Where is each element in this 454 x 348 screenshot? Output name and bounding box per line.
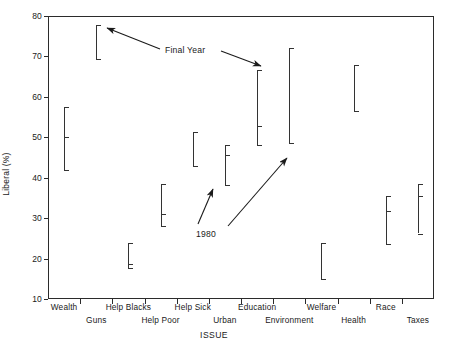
range-cap-bottom [128,268,133,269]
range-cap-top [64,107,69,108]
x-axis-label-race: Race [376,302,396,312]
range-cap-top [354,65,359,66]
y-tick [44,178,48,179]
range-cap-bottom [257,145,262,146]
range-bar [193,132,194,166]
x-tick [338,299,339,304]
range-cap-bottom [289,143,294,144]
range-cap-top [193,132,198,133]
x-axis-label-urban: Urban [213,315,236,325]
range-cap-top [161,184,166,185]
range-cap-top [418,184,423,185]
x-axis-label-taxes: Taxes [407,315,429,325]
range-bar [386,196,387,245]
x-tick [370,299,371,304]
y-tick [44,259,48,260]
y-tick-label: 60 [32,92,42,102]
y-tick [44,16,48,17]
range-cap-bottom [161,226,166,227]
x-axis-label-help-blacks: Help Blacks [106,302,151,312]
range-cap-bottom [225,185,230,186]
x-tick [80,299,81,304]
x-axis-label-education: Education [238,302,276,312]
range-cap-top [225,145,230,146]
x-tick [402,299,403,304]
range-cap-bottom [354,111,359,112]
annotation-1980: 1980 [196,229,216,239]
marker-1980 [161,214,166,215]
y-tick [44,56,48,57]
y-axis-line [48,16,49,299]
y-tick [44,97,48,98]
y-tick [44,218,48,219]
range-cap-top [96,25,101,26]
marker-1980 [257,126,262,127]
x-axis-label-help-poor: Help Poor [141,315,179,325]
y-tick [44,299,48,300]
range-cap-bottom [321,279,326,280]
annotation-final-year: Final Year [165,45,205,55]
range-bar [289,48,290,143]
x-axis-label-wealth: Wealth [51,302,78,312]
y-tick [44,137,48,138]
frame-top-border [48,16,434,17]
range-bar [161,184,162,226]
y-axis-title: Liberal (%) [1,152,11,195]
marker-1980 [128,264,133,265]
x-axis-title: ISSUE [200,330,228,340]
range-bar [321,243,322,279]
marker-1980 [225,155,230,156]
x-axis-label-health: Health [341,315,366,325]
x-axis-label-guns: Guns [86,315,106,325]
range-cap-top [321,243,326,244]
y-tick-label: 40 [32,173,42,183]
y-tick-label: 80 [32,11,42,21]
marker-1980 [418,196,423,197]
frame-right-border [433,16,434,299]
range-bar [354,65,355,112]
y-tick-label: 70 [32,51,42,61]
y-tick-label: 20 [32,254,42,264]
range-cap-top [257,70,262,71]
range-bar [225,145,226,184]
range-cap-top [289,48,294,49]
range-cap-bottom [193,166,198,167]
y-tick-label: 50 [32,132,42,142]
range-cap-bottom [418,234,423,235]
range-cap-top [128,243,133,244]
y-tick-label: 30 [32,213,42,223]
x-axis-label-welfare: Welfare [307,302,337,312]
range-bar [257,70,258,144]
range-bar [418,184,419,234]
marker-1980 [386,211,391,212]
x-axis-label-help-sick: Help Sick [175,302,211,312]
range-bar [96,25,97,59]
plot-area: 1020304050607080 [48,16,434,299]
range-cap-bottom [96,59,101,60]
chart-canvas: 1020304050607080 Liberal (%) ISSUE Wealt… [0,0,454,348]
y-tick-label: 10 [32,294,42,304]
range-cap-bottom [64,170,69,171]
range-cap-bottom [386,244,391,245]
marker-1980 [64,137,69,138]
range-bar [64,107,65,171]
range-cap-top [386,196,391,197]
x-axis-label-environment: Environment [265,315,313,325]
